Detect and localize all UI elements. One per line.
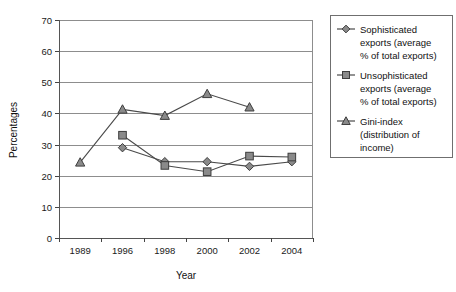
plot-frame bbox=[59, 20, 313, 239]
legend: Sophisticatedexports (average% of total … bbox=[331, 16, 453, 158]
x-tick-label: 2000 bbox=[197, 245, 218, 256]
x-tick-label: 1989 bbox=[70, 245, 91, 256]
triangle-marker bbox=[118, 105, 127, 113]
legend-label: % of total exports) bbox=[360, 50, 437, 61]
series-line-3 bbox=[80, 94, 249, 163]
legend-label: exports (average bbox=[360, 83, 431, 94]
y-tick-label: 0 bbox=[47, 233, 52, 244]
chart-figure: 010203040506070 198919961998200020022004… bbox=[0, 0, 456, 292]
y-tick-label: 60 bbox=[41, 46, 52, 57]
y-tick-label: 10 bbox=[41, 202, 52, 213]
square-marker bbox=[161, 162, 169, 170]
series-markers-group bbox=[76, 89, 296, 175]
x-tick-label: 2004 bbox=[281, 245, 302, 256]
y-tick-label: 40 bbox=[41, 108, 52, 119]
y-tick-label: 50 bbox=[41, 77, 52, 88]
triangle-marker bbox=[203, 89, 212, 97]
legend-label: income) bbox=[360, 142, 394, 153]
y-tick-label: 30 bbox=[41, 140, 52, 151]
x-tick-label: 1996 bbox=[112, 245, 133, 256]
series-lines-group bbox=[80, 94, 292, 172]
square-marker bbox=[343, 72, 350, 79]
x-tick-label: 1998 bbox=[154, 245, 175, 256]
gridlines-group bbox=[59, 21, 313, 208]
x-tick-label: 2002 bbox=[239, 245, 260, 256]
tick-marks-group bbox=[55, 21, 314, 243]
y-tick-labels-group: 010203040506070 bbox=[41, 15, 52, 244]
legend-label: Gini-index bbox=[360, 116, 403, 127]
legend-label: Sophisticated bbox=[360, 24, 417, 35]
y-axis-title: Percentages bbox=[8, 102, 19, 158]
diamond-marker bbox=[245, 162, 253, 170]
square-marker bbox=[246, 152, 254, 160]
square-marker bbox=[119, 131, 127, 139]
legend-label: (distribution of bbox=[360, 129, 420, 140]
y-tick-label: 70 bbox=[41, 15, 52, 26]
square-marker bbox=[203, 168, 211, 176]
y-tick-label: 20 bbox=[41, 171, 52, 182]
legend-label: exports (average bbox=[360, 37, 431, 48]
square-marker bbox=[288, 153, 296, 161]
legend-label: Unsophisticated bbox=[360, 70, 428, 81]
diamond-marker bbox=[203, 158, 211, 166]
x-axis-title: Year bbox=[176, 270, 197, 281]
triangle-marker bbox=[245, 103, 254, 111]
line-chart: 010203040506070 198919961998200020022004… bbox=[0, 0, 456, 292]
legend-label: % of total exports) bbox=[360, 96, 437, 107]
x-tick-labels-group: 198919961998200020022004 bbox=[70, 245, 303, 256]
